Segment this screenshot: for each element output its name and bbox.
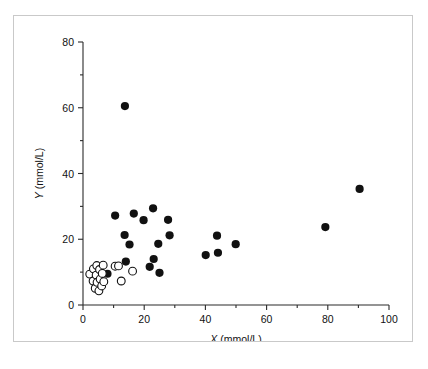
x-tick-label: 60 [261, 313, 273, 325]
data-point-open [115, 262, 123, 270]
data-point-filled [111, 211, 119, 219]
data-points [86, 102, 364, 295]
x-tick-label: 40 [200, 313, 212, 325]
data-point-filled [121, 102, 129, 110]
tick-labels: 020406080100020406080 [62, 36, 398, 325]
scatter-plot: 020406080100020406080 X (mmol/L)Y (mmol/… [14, 16, 412, 341]
axes [83, 42, 389, 305]
data-point-filled [146, 263, 154, 271]
data-point-filled [214, 249, 222, 257]
y-tick-label: 80 [62, 36, 74, 48]
y-tick-label: 20 [62, 233, 74, 245]
data-point-open [98, 270, 106, 278]
data-point-filled [130, 210, 138, 218]
data-point-filled [356, 185, 364, 193]
data-point-filled [122, 258, 130, 266]
tick-marks [78, 42, 389, 310]
data-point-filled [139, 216, 147, 224]
y-tick-label: 0 [68, 299, 74, 311]
x-tick-label: 80 [322, 313, 334, 325]
x-tick-label: 100 [380, 313, 398, 325]
data-point-open [129, 267, 137, 275]
data-point-filled [150, 255, 158, 263]
data-point-open [99, 261, 107, 269]
data-point-filled [232, 240, 240, 248]
data-point-open [117, 277, 125, 285]
data-point-filled [202, 251, 210, 259]
x-tick-label: 20 [138, 313, 150, 325]
data-point-filled [213, 232, 221, 240]
data-point-filled [321, 223, 329, 231]
y-tick-label: 60 [62, 102, 74, 114]
y-axis-title: Y (mmol/L) [33, 148, 45, 199]
x-tick-label: 0 [80, 313, 86, 325]
data-point-filled [149, 204, 157, 212]
x-axis-title: X (mmol/L) [209, 333, 261, 341]
figure-frame: 020406080100020406080 X (mmol/L)Y (mmol/… [13, 15, 413, 342]
data-point-open [100, 278, 108, 286]
data-point-filled [154, 240, 162, 248]
data-point-filled [155, 269, 163, 277]
data-point-filled [164, 216, 172, 224]
y-tick-label: 40 [62, 168, 74, 180]
data-point-filled [121, 231, 129, 239]
data-point-filled [165, 231, 173, 239]
data-point-filled [125, 240, 133, 248]
